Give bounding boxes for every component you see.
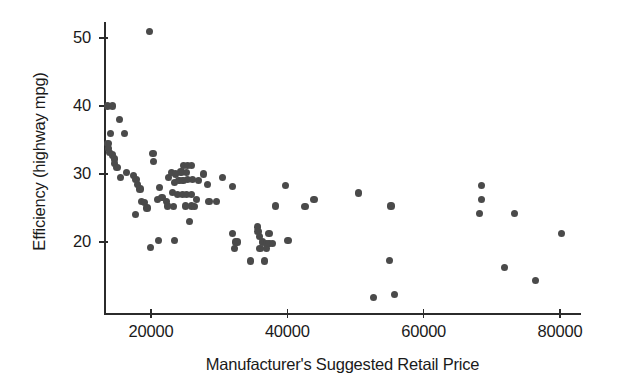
data-point (193, 196, 200, 203)
data-point (263, 245, 270, 252)
plot-area: 20304050 20000400006000080000 Efficiency… (0, 0, 617, 391)
data-point (149, 150, 156, 157)
data-point (143, 204, 150, 211)
data-point (109, 102, 116, 109)
data-point (282, 182, 289, 189)
y-tick-mark (99, 241, 108, 243)
data-point (511, 210, 518, 217)
data-point (107, 130, 114, 137)
data-point (370, 294, 377, 301)
x-axis-title: Manufacturer's Suggested Retail Price (104, 355, 581, 374)
data-point (229, 183, 236, 190)
data-point (204, 181, 211, 188)
data-point (272, 202, 279, 209)
x-axis-line (104, 313, 581, 315)
y-tick-mark (99, 173, 108, 175)
data-point (113, 164, 120, 171)
data-point (558, 230, 565, 237)
x-tick-mark (559, 309, 561, 318)
data-point (478, 196, 485, 203)
x-tick-label: 80000 (515, 322, 605, 341)
data-point (476, 210, 483, 217)
data-point (156, 184, 163, 191)
y-tick-mark (99, 37, 108, 39)
data-point (200, 170, 207, 177)
data-point (150, 158, 157, 165)
data-point (116, 116, 123, 123)
data-point (195, 177, 202, 184)
data-point (265, 230, 272, 237)
data-point (205, 198, 212, 205)
data-point (310, 196, 317, 203)
data-point (355, 189, 362, 196)
data-point (231, 245, 238, 252)
x-tick-mark (150, 309, 152, 318)
y-tick-label: 30 (55, 164, 91, 183)
data-point (213, 198, 220, 205)
data-point (247, 257, 254, 264)
data-point (170, 203, 177, 210)
data-point (532, 277, 539, 284)
y-axis-line (104, 22, 106, 313)
data-point (147, 244, 154, 251)
y-axis-title: Efficiency (highway mpg) (30, 37, 49, 287)
y-tick-label: 20 (55, 232, 91, 251)
y-tick-label: 40 (55, 96, 91, 115)
data-point (155, 237, 162, 244)
data-point (261, 257, 268, 264)
data-point (188, 162, 195, 169)
data-point (229, 230, 236, 237)
data-point (391, 291, 398, 298)
data-point (191, 203, 198, 210)
data-point (219, 174, 226, 181)
data-point (269, 240, 276, 247)
data-point (171, 237, 178, 244)
data-point (301, 203, 308, 210)
x-tick-label: 20000 (106, 322, 196, 341)
data-point (387, 202, 394, 209)
data-point (136, 185, 143, 192)
data-point (186, 218, 193, 225)
data-point (121, 130, 128, 137)
data-point (284, 237, 291, 244)
scatter-plot-figure: 20304050 20000400006000080000 Efficiency… (0, 0, 617, 391)
data-point (117, 174, 124, 181)
x-tick-label: 60000 (379, 322, 469, 341)
x-tick-label: 40000 (242, 322, 332, 341)
data-point (478, 182, 485, 189)
data-point (123, 169, 130, 176)
data-point (146, 28, 153, 35)
x-tick-mark (423, 309, 425, 318)
data-point (132, 211, 139, 218)
data-point (386, 257, 393, 264)
x-tick-mark (287, 309, 289, 318)
data-point (501, 264, 508, 271)
y-tick-label: 50 (55, 28, 91, 47)
